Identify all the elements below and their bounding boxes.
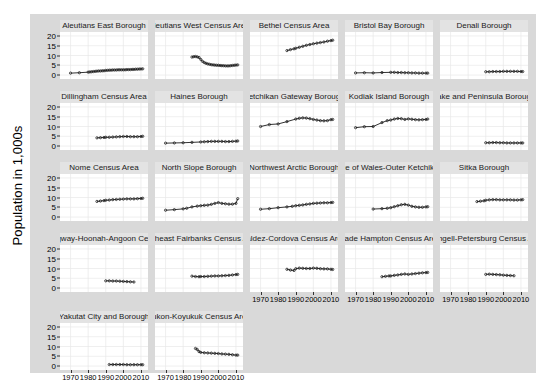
facet-plot-area <box>155 32 243 79</box>
x-tick-mark <box>71 370 72 373</box>
y-tick-label: 0 <box>52 142 56 151</box>
facet-plot-area <box>60 174 148 221</box>
facet-panel: Aleutians East Borough <box>60 20 148 79</box>
facet-panel: Dillingham Census Area <box>60 91 148 150</box>
facet-plot-area <box>345 174 433 221</box>
y-tick-label: 0 <box>52 284 56 293</box>
x-axis: 19701980199020002010 <box>155 370 243 384</box>
facet-plot-area <box>250 32 338 79</box>
facet-strip: Southeast Fairbanks Census Area <box>155 233 243 245</box>
facet-panel: Yukon-Koyukuk Census Area <box>155 311 243 370</box>
facet-plot-area <box>60 32 148 79</box>
x-tick-mark <box>141 370 142 373</box>
y-axis-title: Population in 1,000s <box>10 106 25 266</box>
facet-panel: Lake and Peninsula Borough <box>440 91 528 150</box>
x-tick-mark <box>218 370 219 373</box>
facet-title: Wade Hampton Census Area <box>345 233 433 245</box>
facet-strip: Northwest Arctic Borough <box>250 162 338 174</box>
x-tick-label: 1990 <box>382 295 399 304</box>
facet-panel: Haines Borough <box>155 91 243 150</box>
facet-title: Northwest Arctic Borough <box>250 162 338 174</box>
x-tick-label: 2000 <box>305 295 322 304</box>
y-tick-label: 5 <box>52 352 56 361</box>
y-tick-mark <box>57 207 60 208</box>
facet-grid: Aleutians East Borough05101520Aleutians … <box>30 14 536 373</box>
x-tick-label: 1970 <box>157 373 174 382</box>
facet-title: Bristol Bay Borough <box>354 20 425 32</box>
data-point <box>476 200 478 202</box>
data-point <box>96 200 98 202</box>
x-tick-mark <box>331 292 332 295</box>
facet-title: Aleutians West Census Area <box>155 20 243 32</box>
facet-strip: Wrangell-Petersburg Census Area <box>440 233 528 245</box>
y-tick-mark <box>57 55 60 56</box>
x-tick-mark <box>391 292 392 295</box>
x-tick-mark <box>426 292 427 295</box>
x-tick-mark <box>261 292 262 295</box>
facet-title: North Slope Borough <box>162 162 237 174</box>
x-tick-label: 2010 <box>323 295 340 304</box>
facet-panel: Skagway-Hoonah-Angoon Census <box>60 233 148 292</box>
y-tick-label: 10 <box>47 264 56 273</box>
x-tick-label: 2000 <box>400 295 417 304</box>
facet-plot-area <box>345 103 433 150</box>
data-point <box>332 118 334 120</box>
facet-title: Prince of Wales-Outer Ketchikan C <box>345 162 433 174</box>
x-tick-label: 1980 <box>460 295 477 304</box>
y-tick-label: 20 <box>47 102 56 111</box>
x-tick-mark <box>408 292 409 295</box>
facet-plot-area <box>250 103 338 150</box>
x-tick-mark <box>88 370 89 373</box>
x-tick-mark <box>521 292 522 295</box>
facet-panel: Wade Hampton Census Area <box>345 233 433 292</box>
y-tick-label: 5 <box>52 274 56 283</box>
data-point <box>286 268 288 270</box>
y-tick-label: 10 <box>47 51 56 60</box>
facet-strip: Denali Borough <box>440 20 528 32</box>
x-tick-label: 1970 <box>347 295 364 304</box>
y-tick-mark <box>57 116 60 117</box>
x-tick-mark <box>278 292 279 295</box>
facet-panel: Prince of Wales-Outer Ketchikan C <box>345 162 433 221</box>
y-axis: 05101520 <box>32 323 60 370</box>
facet-panel: Nome Census Area <box>60 162 148 221</box>
data-point <box>133 281 135 283</box>
facet-panel: Sitka Borough <box>440 162 528 221</box>
facet-title: Haines Borough <box>170 91 227 103</box>
data-point <box>332 201 334 203</box>
x-tick-mark <box>468 292 469 295</box>
x-tick-label: 1980 <box>270 295 287 304</box>
y-tick-mark <box>57 146 60 147</box>
y-tick-mark <box>57 65 60 66</box>
x-tick-label: 1970 <box>62 373 79 382</box>
y-tick-label: 15 <box>47 41 56 50</box>
data-point <box>381 276 383 278</box>
y-tick-mark <box>57 35 60 36</box>
facet-title: Skagway-Hoonah-Angoon Census <box>60 233 148 245</box>
facet-title: Nome Census Area <box>69 162 138 174</box>
facet-title: Ketchikan Gateway Borough <box>250 91 338 103</box>
data-point <box>513 275 515 277</box>
y-axis: 05101520 <box>32 174 60 221</box>
facet-panel: Ketchikan Gateway Borough <box>250 91 338 150</box>
y-tick-mark <box>57 45 60 46</box>
data-point <box>286 49 288 51</box>
y-tick-mark <box>57 288 60 289</box>
x-axis: 19701980199020002010 <box>250 292 338 306</box>
y-tick-mark <box>57 356 60 357</box>
x-tick-mark <box>201 370 202 373</box>
facet-title: Wrangell-Petersburg Census Area <box>440 233 528 245</box>
y-tick-mark <box>57 278 60 279</box>
facet-strip: Aleutians West Census Area <box>155 20 243 32</box>
y-tick-label: 20 <box>47 244 56 253</box>
facet-strip: Bethel Census Area <box>250 20 338 32</box>
x-tick-label: 2010 <box>228 373 245 382</box>
facet-strip: Yukon-Koyukuk Census Area <box>155 311 243 323</box>
facet-plot-area <box>440 32 528 79</box>
x-tick-label: 1980 <box>80 373 97 382</box>
x-tick-label: 2000 <box>115 373 132 382</box>
x-tick-mark <box>183 370 184 373</box>
y-tick-mark <box>57 346 60 347</box>
facet-strip: Haines Borough <box>155 91 243 103</box>
x-tick-label: 1980 <box>365 295 382 304</box>
